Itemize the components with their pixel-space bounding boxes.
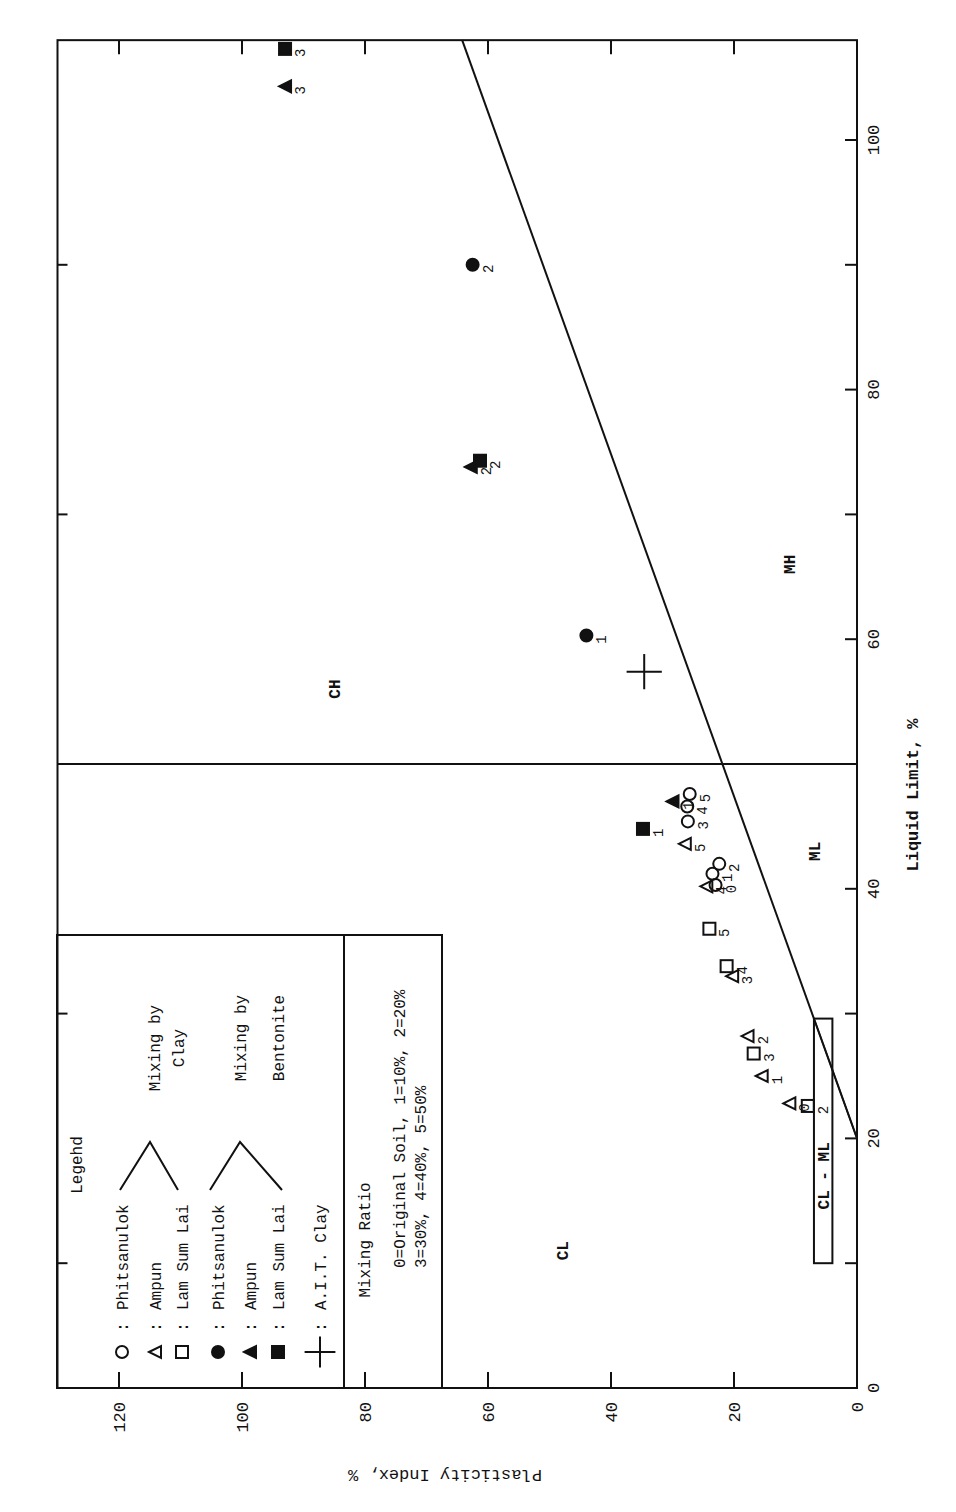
plot-border — [58, 40, 858, 1388]
x-tick-label: 60 — [865, 629, 884, 649]
zone-label: MH — [782, 555, 800, 574]
triangle-filled-marker — [667, 795, 679, 807]
legend-entry: :Phitsanulok — [115, 1204, 133, 1358]
legend-entry: :A.I.T. Clay — [305, 1204, 336, 1367]
plasticity-chart: CHMHMLCLCL - ML 012345012345234512123123… — [0, 0, 956, 1512]
point-label: 1 — [681, 801, 697, 809]
triangle-open-legend-icon — [149, 1346, 161, 1358]
mixing-ratio-line2: 3=30%, 4=40%, 5=50% — [413, 1085, 431, 1268]
legend-colon: : — [175, 1322, 193, 1332]
circle-filled-marker — [467, 259, 479, 271]
legend-entry: :Phitsanulok — [211, 1204, 229, 1358]
point-label: 3 — [740, 976, 756, 984]
series-plus — [627, 654, 662, 689]
plus-marker — [627, 654, 662, 689]
legend-label: Phitsanulok — [115, 1204, 133, 1310]
point-label: 3 — [293, 86, 309, 94]
legend: Legehd :Phitsanulok:Ampun:Lam Sum Lai:Ph… — [57, 935, 442, 1388]
x-tick-label: 20 — [865, 1128, 884, 1148]
legend-group-clay-line2: Clay — [171, 1028, 189, 1067]
square-filled-legend-icon — [272, 1346, 284, 1358]
point-label: 3 — [762, 1053, 778, 1061]
y-tick-label: 40 — [603, 1402, 622, 1422]
mixing-ratio-title: Mixing Ratio — [357, 1182, 375, 1297]
square-open-marker — [721, 960, 733, 972]
triangle-open-marker — [783, 1097, 795, 1109]
zone-label: ML — [807, 842, 825, 861]
legend-colon: : — [211, 1322, 229, 1332]
legend-box — [57, 935, 344, 1388]
point-label: 5 — [717, 929, 733, 937]
x-tick-label: 0 — [865, 1383, 884, 1393]
series-triangle-filled: 123 — [279, 80, 696, 809]
x-axis-label: Liquid Limit, % — [904, 718, 923, 872]
legend-label: Lam Sum Lai — [175, 1204, 193, 1310]
legend-entry: :Ampun — [243, 1262, 261, 1358]
zone-label: CH — [327, 680, 345, 699]
circle-open-marker — [684, 788, 696, 800]
square-open-legend-icon — [176, 1346, 188, 1358]
circle-open-legend-icon — [116, 1346, 128, 1358]
data-points: 012345012345234512123123 — [279, 43, 832, 1114]
point-label: 1 — [770, 1076, 786, 1084]
legend-group-clay-line1: Mixing by — [147, 1004, 165, 1091]
mixing-ratio-line1: 0=Original Soil, 1=10%, 2=20% — [392, 989, 410, 1268]
plus-legend-icon — [305, 1337, 336, 1368]
point-label: 5 — [698, 794, 714, 802]
legend-colon: : — [243, 1322, 261, 1332]
legend-group-bentonite-line1: Mixing by — [233, 994, 251, 1081]
x-tick-label: 80 — [865, 379, 884, 399]
point-label: 2 — [481, 265, 497, 273]
zone-label: CL — [555, 1241, 573, 1260]
legend-colon: : — [148, 1322, 166, 1332]
square-open-marker — [748, 1048, 760, 1060]
legend-label: A.I.T. Clay — [313, 1204, 331, 1310]
point-label: 2 — [816, 1106, 832, 1114]
point-label: 1 — [651, 829, 667, 837]
y-axis-label: Plasticity Index, % — [347, 1465, 542, 1484]
point-label: 4 — [735, 966, 751, 974]
circle-open-marker — [713, 858, 725, 870]
point-label: 5 — [693, 844, 709, 852]
a-line — [462, 40, 857, 1138]
point-label: 2 — [727, 864, 743, 872]
series-square-open: 2345 — [703, 923, 831, 1114]
legend-entries: :Phitsanulok:Ampun:Lam Sum Lai:Phitsanul… — [115, 1204, 335, 1367]
y-tick-label: 20 — [726, 1402, 745, 1422]
y-tick-label: 60 — [480, 1402, 499, 1422]
square-filled-marker — [637, 823, 649, 835]
x-tick-label: 100 — [865, 125, 884, 156]
legend-label: Lam Sum Lai — [271, 1204, 289, 1310]
point-label: 2 — [756, 1036, 772, 1044]
triangle-filled-marker — [279, 80, 291, 92]
u-line-segment — [814, 1019, 857, 1139]
point-label: 4 — [714, 886, 730, 894]
circle-filled-marker — [580, 629, 592, 641]
legend-group-bentonite-line2: Bentonite — [271, 995, 289, 1081]
y-tick-label: 80 — [357, 1402, 376, 1422]
legend-colon: : — [313, 1322, 331, 1332]
triangle-open-marker — [742, 1030, 754, 1042]
triangle-filled-legend-icon — [244, 1346, 256, 1358]
legend-entry: :Ampun — [148, 1262, 166, 1358]
legend-label: Ampun — [243, 1262, 261, 1310]
point-label: 1 — [594, 635, 610, 643]
square-filled-marker — [474, 455, 486, 467]
y-tick-label: 100 — [234, 1402, 253, 1433]
point-label: 2 — [488, 461, 504, 469]
legend-entry: :Lam Sum Lai — [271, 1204, 289, 1358]
point-label: 3 — [293, 49, 309, 57]
plot-frame — [58, 40, 858, 1388]
square-open-marker — [703, 923, 715, 935]
square-filled-marker — [279, 43, 291, 55]
x-tick-label: 40 — [865, 879, 884, 899]
mixing-ratio-box: Mixing Ratio 0=Original Soil, 1=10%, 2=2… — [357, 989, 431, 1297]
legend-group-bracket — [120, 1142, 178, 1190]
legend-title: Legehd — [69, 1136, 87, 1194]
legend-colon: : — [115, 1322, 133, 1332]
legend-colon: : — [271, 1322, 289, 1332]
series-circle-filled: 12 — [467, 259, 611, 644]
cl-ml-zone-box — [814, 1019, 832, 1264]
y-tick-label: 0 — [849, 1402, 868, 1412]
circle-filled-legend-icon — [212, 1346, 224, 1358]
